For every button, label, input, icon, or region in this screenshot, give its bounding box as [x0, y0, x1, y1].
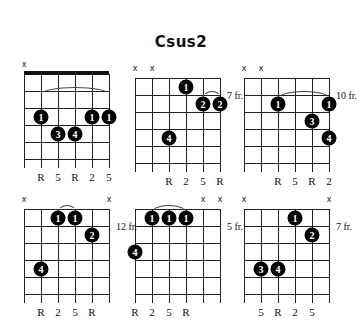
fret-line	[135, 112, 220, 113]
interval-label: 5	[106, 172, 112, 183]
interval-label: 5	[166, 307, 172, 318]
chord-diagram-tenth-fret: xx113410 fr.R5R2	[244, 78, 329, 163]
mute-marker-string-1: x	[242, 196, 247, 204]
string-line	[261, 209, 262, 303]
finger-dot-1: 1	[68, 210, 83, 225]
string-line	[244, 209, 245, 303]
finger-dot-4: 4	[271, 261, 286, 276]
fret-position-label: 12 fr.	[116, 222, 137, 232]
fret-line	[24, 125, 109, 126]
string-line	[135, 78, 136, 172]
finger-dot-2: 2	[196, 96, 211, 111]
interval-label: 2	[292, 307, 298, 318]
string-line	[220, 209, 221, 303]
fret-line	[135, 163, 220, 164]
finger-dot-1: 1	[271, 96, 286, 111]
fret-line	[244, 209, 329, 210]
mute-marker-string-2: x	[259, 65, 264, 73]
mute-marker-string-1: x	[133, 65, 138, 73]
mute-marker-string-2: x	[150, 65, 155, 73]
interval-label: 5	[309, 307, 315, 318]
finger-dot-1: 1	[85, 109, 100, 124]
interval-label: R	[37, 172, 44, 183]
chord-diagram-twelfth-fret: xx112412 fr.R25R	[24, 209, 109, 294]
fret-line	[244, 129, 329, 130]
interval-label: 2	[149, 307, 155, 318]
finger-dot-3: 3	[305, 113, 320, 128]
interval-label: R	[88, 307, 95, 318]
string-line	[109, 209, 110, 303]
fret-line	[24, 142, 109, 143]
fret-line	[244, 112, 329, 113]
fret-line	[135, 129, 220, 130]
fret-line	[24, 294, 109, 295]
mute-marker-string-5: x	[201, 196, 206, 204]
interval-label: R	[274, 307, 281, 318]
finger-dot-2: 2	[213, 96, 228, 111]
string-line	[329, 78, 330, 172]
finger-dot-4: 4	[322, 130, 337, 145]
fret-position-label: 5 fr.	[227, 222, 243, 232]
fret-line	[24, 243, 109, 244]
string-line	[220, 78, 221, 172]
string-line	[278, 78, 279, 172]
interval-label: R	[274, 176, 281, 187]
finger-dot-2: 2	[305, 227, 320, 242]
interval-label: 2	[89, 172, 95, 183]
interval-label: 5	[258, 307, 264, 318]
fret-line	[244, 163, 329, 164]
page-title: Csus2	[0, 33, 362, 51]
fret-line	[135, 294, 220, 295]
interval-label: R	[216, 176, 223, 187]
fret-line	[244, 277, 329, 278]
finger-dot-4: 4	[68, 126, 83, 141]
interval-label: 5	[55, 172, 61, 183]
finger-dot-1: 1	[179, 210, 194, 225]
interval-label: R	[37, 307, 44, 318]
fret-line	[135, 146, 220, 147]
finger-dot-4: 4	[128, 244, 143, 259]
fret-line	[244, 146, 329, 147]
nut	[24, 71, 109, 75]
fret-line	[244, 294, 329, 295]
finger-dot-3: 3	[254, 261, 269, 276]
string-line	[24, 209, 25, 303]
finger-dot-4: 4	[34, 261, 49, 276]
fret-line	[244, 243, 329, 244]
mute-marker-string-6: x	[218, 196, 223, 204]
string-line	[92, 209, 93, 303]
mute-marker-string-1: x	[242, 65, 247, 73]
string-line	[278, 209, 279, 303]
interval-label: R	[182, 307, 189, 318]
interval-label: R	[165, 176, 172, 187]
fret-line	[135, 243, 220, 244]
fret-line	[24, 277, 109, 278]
fretboard-grid	[24, 209, 109, 294]
interval-label: R	[71, 172, 78, 183]
fret-line	[135, 277, 220, 278]
fret-position-label: 10 fr.	[336, 91, 357, 101]
fret-line	[244, 78, 329, 79]
mute-marker-string-6: x	[327, 196, 332, 204]
chord-diagram-fifth-fret: xx11145 fr.R25R	[135, 209, 220, 294]
string-line	[169, 78, 170, 172]
fretboard-grid	[244, 209, 329, 294]
fret-line	[135, 226, 220, 227]
string-line	[203, 209, 204, 303]
interval-label: 5	[292, 176, 298, 187]
finger-dot-1: 1	[102, 109, 117, 124]
interval-label: 2	[55, 307, 61, 318]
fret-position-label: 7 fr.	[227, 91, 243, 101]
interval-label: 2	[326, 176, 332, 187]
interval-label: R	[308, 176, 315, 187]
finger-dot-1: 1	[51, 210, 66, 225]
finger-dot-1: 1	[162, 210, 177, 225]
mute-marker-string-1: x	[22, 196, 27, 204]
fret-line	[24, 159, 109, 160]
finger-dot-2: 2	[85, 227, 100, 242]
finger-dot-1: 1	[179, 79, 194, 94]
interval-label: R	[131, 307, 138, 318]
chord-diagram-seventh-fret-b: xx12347 fr.5R25	[244, 209, 329, 294]
finger-dot-4: 4	[162, 130, 177, 145]
finger-dot-1: 1	[288, 210, 303, 225]
